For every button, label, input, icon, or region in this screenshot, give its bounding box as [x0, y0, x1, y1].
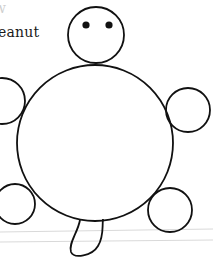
turtle-limbs	[0, 78, 210, 232]
turtle-outline	[0, 7, 210, 256]
ruled-lines	[0, 229, 213, 242]
turtle-limb-front-right	[166, 88, 210, 132]
turtle-drawing	[0, 0, 213, 261]
turtle-body-shell	[17, 65, 173, 221]
turtle-limb-back-right	[148, 188, 192, 232]
turtle-head	[68, 7, 124, 63]
turtle-eyes	[82, 21, 112, 28]
turtle-limb-back-left	[0, 184, 35, 224]
turtle-tail	[70, 219, 103, 256]
left-eye	[82, 21, 89, 28]
worksheet-page: w eanut	[0, 0, 213, 261]
right-eye	[105, 21, 112, 28]
ruled-line	[0, 240, 213, 242]
